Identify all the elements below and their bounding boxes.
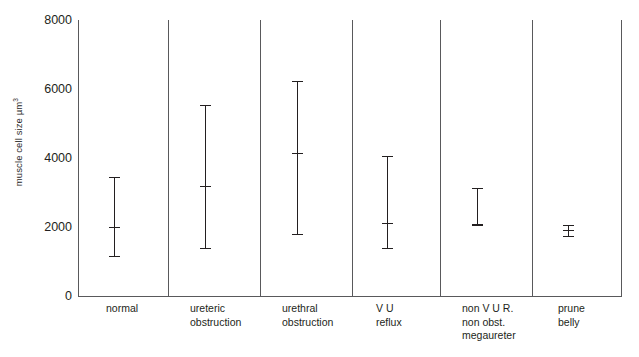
y-tick-label: 4000 <box>26 152 72 165</box>
panel-divider <box>532 20 533 297</box>
x-axis-category-labels: normalureteric obstructionurethral obstr… <box>78 302 621 357</box>
panel-divider <box>168 20 169 297</box>
plot-area <box>78 20 621 296</box>
panel-divider <box>352 20 353 297</box>
right-frame-line <box>621 20 622 297</box>
error-bar-lower-cap <box>563 236 574 237</box>
y-axis-tick-labels: 80006000400020000 <box>22 0 72 357</box>
panel-divider <box>440 20 441 297</box>
y-tick-label: 2000 <box>26 221 72 234</box>
y-tick-label: 6000 <box>26 83 72 96</box>
x-category-label: ureteric obstruction <box>190 302 241 329</box>
error-bar-upper-cap <box>109 177 120 178</box>
x-category-label: V U reflux <box>376 302 402 329</box>
y-tick-label: 0 <box>26 290 72 303</box>
y-axis-label-superscript: 3 <box>12 98 19 102</box>
error-bar <box>387 156 388 247</box>
error-bar <box>477 188 478 225</box>
error-bar <box>205 105 206 248</box>
error-bar-upper-cap <box>382 156 393 157</box>
panel-divider <box>260 20 261 297</box>
error-bar-lower-cap <box>292 234 303 235</box>
x-category-label: prune belly <box>558 302 585 329</box>
error-bar-upper-cap <box>563 225 574 226</box>
x-category-label: non V U R. non obst. megaureter <box>462 302 516 343</box>
x-category-label: urethral obstruction <box>282 302 333 329</box>
error-bar-mean-marker <box>382 223 393 224</box>
error-bar-mean-marker <box>292 153 303 154</box>
error-bar-mean-marker <box>563 230 574 231</box>
error-bar-lower-cap <box>382 248 393 249</box>
error-bar-lower-cap <box>200 248 211 249</box>
y-axis-line <box>78 20 79 297</box>
x-axis-line <box>78 296 622 297</box>
error-bar <box>114 177 115 256</box>
chart-figure: muscle cell size µm3 80006000400020000 n… <box>0 0 639 357</box>
error-bar-upper-cap <box>472 188 483 189</box>
error-bar-upper-cap <box>200 105 211 106</box>
error-bar-upper-cap <box>292 81 303 82</box>
error-bar-lower-cap <box>109 256 120 257</box>
error-bar-lower-cap <box>472 225 483 226</box>
y-tick-label: 8000 <box>26 14 72 27</box>
error-bar-mean-marker <box>109 227 120 228</box>
error-bar-mean-marker <box>200 186 211 187</box>
error-bar <box>297 81 298 233</box>
x-category-label: normal <box>106 302 138 316</box>
